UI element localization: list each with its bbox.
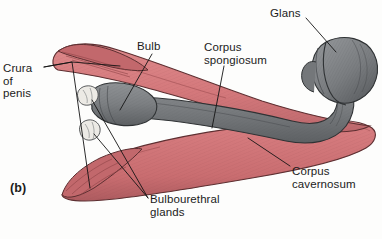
- glans-penis: [302, 38, 378, 105]
- anatomical-figure: Crura of penis Bulb Corpus spongiosum Gl…: [0, 0, 382, 239]
- label-bulb: Bulb: [137, 40, 160, 53]
- label-corpus-spongiosum: Corpus spongiosum: [204, 41, 267, 66]
- label-corpus-cavernosum: Corpus cavernosum: [292, 165, 356, 190]
- figure-panel-label: (b): [10, 182, 26, 195]
- label-bulbourethral-glands: Bulbourethral glands: [150, 193, 220, 218]
- label-glans: Glans: [270, 7, 301, 20]
- label-crura-of-penis: Crura of penis: [3, 62, 32, 100]
- bulbourethral-gland-upper: [77, 86, 98, 105]
